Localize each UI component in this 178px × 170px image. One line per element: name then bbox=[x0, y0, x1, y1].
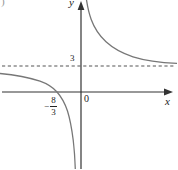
x-intercept-fraction: 8 3 bbox=[50, 96, 57, 117]
curve-left-branch bbox=[0, 74, 75, 170]
y-axis bbox=[78, 1, 85, 169]
origin-label: 0 bbox=[84, 94, 89, 104]
curve-right-branch bbox=[87, 0, 178, 63]
x-intercept-minus-sign: − bbox=[44, 102, 49, 111]
x-intercept-label: − 8 3 bbox=[44, 96, 57, 117]
asymptote-value-label: 3 bbox=[70, 54, 75, 63]
x-axis-label: x bbox=[165, 96, 170, 107]
graph-figure: ) y x 0 3 − 8 3 bbox=[0, 0, 177, 169]
fraction-denominator: 3 bbox=[50, 108, 57, 117]
coordinate-plot bbox=[0, 0, 177, 169]
fraction-numerator: 8 bbox=[50, 96, 57, 105]
y-axis-label: y bbox=[69, 0, 74, 8]
